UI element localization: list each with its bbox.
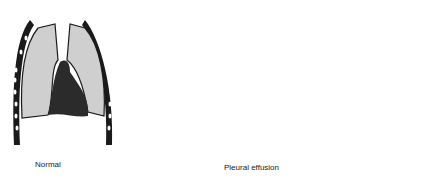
normal-lungs bbox=[13, 20, 112, 145]
label-normal: Normal bbox=[35, 160, 61, 169]
diagram-canvas bbox=[0, 0, 423, 179]
label-pleural-effusion: Pleural effusion bbox=[224, 163, 279, 172]
